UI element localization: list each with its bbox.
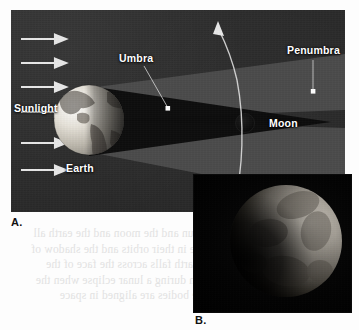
sunlight-arrow [21, 83, 66, 92]
bleed-through-ghost-text: the sun and the moon and the earth all m… [16, 226, 216, 322]
moon-photo-disc [230, 185, 342, 297]
label-sunlight: Sunlight [14, 102, 58, 114]
label-umbra: Umbra [119, 52, 153, 64]
panel-letter-a: A. [11, 216, 23, 228]
panel-b-eclipse-photo [194, 175, 351, 312]
sunlight-arrow [21, 35, 66, 44]
label-moon: Moon [269, 117, 298, 129]
panel-letter-b: B. [195, 314, 207, 326]
moon-disc [236, 114, 255, 133]
label-earth: Earth [66, 162, 94, 174]
label-penumbra: Penumbra [287, 44, 340, 56]
eclipsed-moon-photo-svg [194, 175, 351, 312]
sunlight-arrow [21, 139, 66, 148]
earth-shadow-overlay [230, 185, 342, 297]
sunlight-arrow [21, 166, 66, 175]
sunlight-arrow [21, 59, 66, 68]
